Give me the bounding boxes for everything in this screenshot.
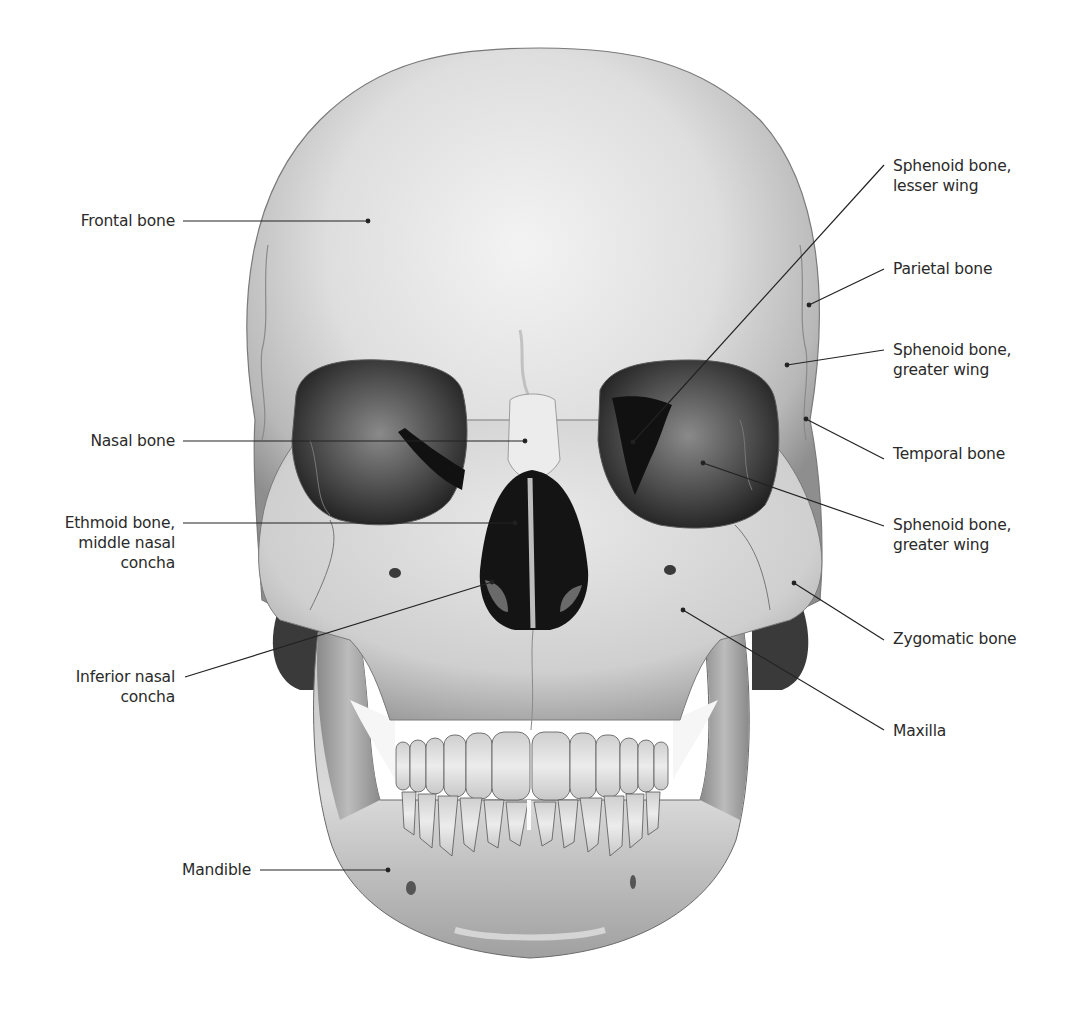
label-text: greater wing [893, 360, 1011, 380]
label-text: concha [76, 687, 175, 707]
leader-dot-nasal [523, 439, 527, 443]
leader-dot-sphenoid-lesser [631, 440, 635, 444]
label-text: Ethmoid bone, [65, 513, 175, 533]
label-text: Mandible [182, 860, 251, 880]
label-sphenoid-lesser-wing: Sphenoid bone, lesser wing [893, 156, 1011, 196]
label-text: Sphenoid bone, [893, 340, 1011, 360]
leader-dot-mandible [386, 868, 390, 872]
label-temporal-bone: Temporal bone [893, 444, 1005, 464]
label-text: concha [65, 553, 175, 573]
label-parietal-bone: Parietal bone [893, 259, 992, 279]
label-maxilla: Maxilla [893, 721, 946, 741]
label-text: Parietal bone [893, 259, 992, 279]
label-text: Nasal bone [90, 431, 175, 451]
leader-dot-zygomatic [792, 581, 796, 585]
leader-dot-parietal [807, 303, 811, 307]
leader-dot-inferior-concha [490, 580, 494, 584]
nasal-bones-shape [508, 394, 560, 480]
label-text: Inferior nasal [76, 667, 175, 687]
label-text: Sphenoid bone, [893, 515, 1011, 535]
label-inferior-nasal-concha: Inferior nasal concha [76, 667, 175, 707]
label-text: Sphenoid bone, [893, 156, 1011, 176]
label-mandible: Mandible [182, 860, 251, 880]
leader-dot-frontal [366, 219, 370, 223]
label-text: Temporal bone [893, 444, 1005, 464]
label-ethmoid-bone: Ethmoid bone, middle nasal concha [65, 513, 175, 573]
label-sphenoid-greater-wing-1: Sphenoid bone, greater wing [893, 340, 1011, 380]
leader-line-temporal [806, 419, 884, 459]
anatomy-figure: Frontal bone Nasal bone Ethmoid bone, mi… [0, 0, 1082, 1018]
leader-dot-maxilla [681, 608, 685, 612]
skull-illustration [0, 0, 1082, 1018]
label-text: lesser wing [893, 176, 1011, 196]
label-text: middle nasal [65, 533, 175, 553]
label-frontal-bone: Frontal bone [81, 211, 175, 231]
label-nasal-bone: Nasal bone [90, 431, 175, 451]
label-text: greater wing [893, 535, 1011, 555]
label-zygomatic-bone: Zygomatic bone [893, 629, 1016, 649]
leader-line-parietal [809, 269, 884, 305]
label-sphenoid-greater-wing-2: Sphenoid bone, greater wing [893, 515, 1011, 555]
label-text: Zygomatic bone [893, 629, 1016, 649]
left-orbit [598, 360, 779, 528]
label-text: Maxilla [893, 721, 946, 741]
label-text: Frontal bone [81, 211, 175, 231]
right-orbit [292, 360, 467, 525]
leader-dot-sphenoid-greater-2 [701, 461, 705, 465]
leader-dot-ethmoid [513, 521, 517, 525]
leader-dot-temporal [804, 417, 808, 421]
upper-teeth [396, 732, 668, 800]
leader-dot-sphenoid-greater-1 [785, 363, 789, 367]
